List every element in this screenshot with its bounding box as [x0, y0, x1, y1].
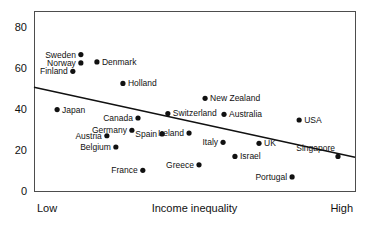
point-marker: [120, 81, 125, 86]
point-marker: [113, 144, 118, 149]
y-axis-tick-label-0: 0: [21, 185, 27, 197]
y-axis-tick-label-60: 60: [15, 62, 27, 74]
y-axis-tick-label-40: 40: [15, 103, 27, 115]
point-label: Denmark: [102, 57, 137, 67]
x-axis-title: Income inequality: [152, 202, 238, 214]
point-marker: [135, 115, 140, 120]
point-label: New Zealand: [210, 93, 260, 103]
point-label: Belgium: [80, 142, 111, 152]
point-marker: [220, 140, 225, 145]
y-axis-tick-label-80: 80: [15, 21, 27, 33]
data-point-switzerland: Switzerland: [165, 108, 217, 118]
point-label: Canada: [103, 113, 133, 123]
point-marker: [70, 69, 75, 74]
point-label: UK: [264, 138, 276, 148]
point-label: France: [111, 165, 138, 175]
point-marker: [165, 111, 170, 116]
scatter-chart: 020406080LowHighIncome inequalitySwedenN…: [0, 0, 373, 244]
point-marker: [55, 107, 60, 112]
point-marker: [140, 168, 145, 173]
point-label: Australia: [229, 109, 262, 119]
point-marker: [186, 131, 191, 136]
point-marker: [297, 117, 302, 122]
point-marker: [221, 112, 226, 117]
point-label: Italy: [202, 137, 218, 147]
point-marker: [78, 52, 83, 57]
point-marker: [256, 141, 261, 146]
point-label: Holland: [128, 78, 157, 88]
point-marker: [78, 60, 83, 65]
point-label: Austria: [75, 131, 102, 141]
point-marker: [335, 154, 340, 159]
point-label: Ireland: [158, 128, 184, 138]
point-marker: [289, 174, 294, 179]
point-label: Singapore: [296, 143, 335, 153]
point-marker: [232, 154, 237, 159]
plot-frame: [35, 12, 356, 192]
x-axis-low-label: Low: [37, 202, 57, 214]
point-label: Israel: [240, 151, 261, 161]
point-label: Portugal: [255, 172, 287, 182]
x-axis-high-label: High: [330, 202, 353, 214]
point-label: Japan: [62, 105, 85, 115]
point-label: USA: [304, 115, 322, 125]
point-label: Switzerland: [173, 108, 217, 118]
point-label: Greece: [166, 160, 194, 170]
plot-canvas: 020406080LowHighIncome inequalitySwedenN…: [0, 0, 373, 244]
point-marker: [94, 59, 99, 64]
data-point-new-zealand: New Zealand: [202, 93, 260, 103]
point-marker: [202, 96, 207, 101]
point-marker: [104, 133, 109, 138]
point-label: Spain: [135, 129, 157, 139]
point-label: Finland: [40, 66, 68, 76]
point-marker: [196, 162, 201, 167]
point-marker: [129, 128, 134, 133]
y-axis-tick-label-20: 20: [15, 144, 27, 156]
